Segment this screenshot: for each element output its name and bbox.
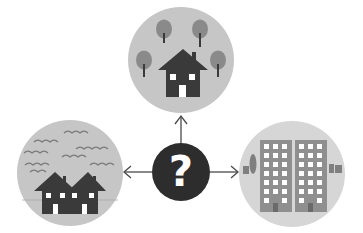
question-mark-icon: ? — [152, 143, 210, 201]
housing-choice-diagram: ? — [0, 0, 363, 233]
arrow-right — [210, 166, 238, 178]
seaside-houses-icon — [17, 120, 123, 226]
arrow-up — [175, 116, 187, 143]
arrow-left — [124, 166, 152, 178]
house-with-trees-icon — [128, 7, 234, 113]
question-symbol: ? — [169, 147, 193, 196]
apartment-buildings-icon — [239, 121, 345, 227]
